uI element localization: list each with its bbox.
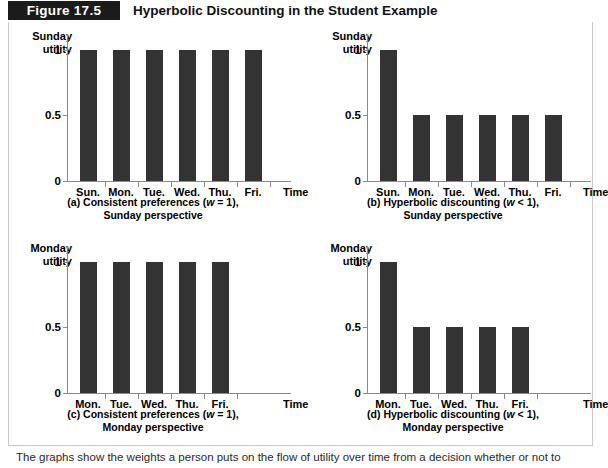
figure-header: Figure 17.5 Hyperbolic Discounting in th… bbox=[0, 0, 602, 22]
y-axis-title-line2: utility bbox=[318, 255, 372, 268]
y-axis-line bbox=[67, 34, 68, 182]
y-tick-mark bbox=[63, 115, 67, 116]
panel-caption-line2: Monday perspective bbox=[308, 421, 598, 434]
plot-area: 10.50Mon.Tue.Wed.Thu.Fri.Time bbox=[367, 246, 591, 394]
bar bbox=[479, 115, 496, 181]
y-tick-mark bbox=[63, 181, 67, 182]
y-tick-label: 0 bbox=[355, 175, 361, 187]
y-tick-mark bbox=[363, 50, 367, 51]
x-tick-mark bbox=[270, 182, 271, 187]
x-tick-mark bbox=[105, 182, 106, 187]
x-tick-mark bbox=[237, 182, 238, 187]
y-tick-label: 0.5 bbox=[345, 109, 361, 121]
panel-caption-line1: (b) Hyperbolic discounting (w < 1), bbox=[308, 196, 598, 209]
y-tick-label: 1 bbox=[55, 44, 61, 56]
chart-panel-c: Mondayutility10.50Mon.Tue.Wed.Thu.Fri.Ti… bbox=[8, 234, 298, 442]
bar bbox=[146, 262, 163, 393]
chart-panel-b: Sundayutility10.50Sun.Mon.Tue.Wed.Thu.Fr… bbox=[308, 22, 598, 230]
y-tick-mark bbox=[363, 115, 367, 116]
bar bbox=[446, 327, 463, 393]
bar bbox=[80, 262, 97, 393]
y-tick-label: 0 bbox=[355, 387, 361, 399]
y-tick-label: 0.5 bbox=[45, 109, 61, 121]
x-axis-line bbox=[67, 181, 291, 182]
bar bbox=[446, 115, 463, 181]
y-axis-title-line1: Monday bbox=[18, 242, 72, 255]
x-tick-mark bbox=[138, 182, 139, 187]
y-axis-title-line2: utility bbox=[18, 255, 72, 268]
x-tick-mark bbox=[204, 182, 205, 187]
y-tick-mark bbox=[63, 262, 67, 263]
y-tick-label: 0.5 bbox=[45, 321, 61, 333]
panel-caption: (b) Hyperbolic discounting (w < 1),Sunda… bbox=[308, 196, 598, 222]
chart-panel-d: Mondayutility10.50Mon.Tue.Wed.Thu.Fri.Ti… bbox=[308, 234, 598, 442]
x-tick-mark bbox=[237, 394, 238, 399]
plot-area: 10.50Sun.Mon.Tue.Wed.Thu.Fri.Time bbox=[367, 34, 591, 182]
y-axis-title: Sundayutility bbox=[18, 30, 72, 55]
x-tick-mark bbox=[438, 394, 439, 399]
chart-panel-a: Sundayutility10.50Sun.Mon.Tue.Wed.Thu.Fr… bbox=[8, 22, 298, 230]
bar bbox=[413, 115, 430, 181]
panel-caption: (d) Hyperbolic discounting (w < 1),Monda… bbox=[308, 408, 598, 434]
y-tick-label: 1 bbox=[355, 256, 361, 268]
bar bbox=[245, 50, 262, 181]
x-tick-mark bbox=[537, 394, 538, 399]
x-tick-mark bbox=[171, 394, 172, 399]
x-tick-mark bbox=[471, 394, 472, 399]
y-axis-title-line1: Monday bbox=[318, 242, 372, 255]
x-tick-mark bbox=[138, 394, 139, 399]
bar bbox=[380, 262, 397, 393]
x-tick-mark bbox=[471, 182, 472, 187]
y-tick-mark bbox=[363, 262, 367, 263]
y-tick-mark bbox=[63, 50, 67, 51]
figure-title: Hyperbolic Discounting in the Student Ex… bbox=[133, 2, 438, 19]
y-axis-title-line1: Sunday bbox=[18, 30, 72, 43]
x-tick-mark bbox=[105, 394, 106, 399]
x-tick-mark bbox=[570, 182, 571, 187]
y-tick-mark bbox=[63, 393, 67, 394]
bar bbox=[113, 50, 130, 181]
x-tick-mark bbox=[537, 182, 538, 187]
plot-area: 10.50Mon.Tue.Wed.Thu.Fri.Time bbox=[67, 246, 291, 394]
y-axis-title-line2: utility bbox=[18, 43, 72, 56]
y-tick-label: 0.5 bbox=[345, 321, 361, 333]
y-axis-line bbox=[367, 246, 368, 394]
x-tick-mark bbox=[171, 182, 172, 187]
y-axis-line bbox=[67, 246, 68, 394]
y-tick-label: 0 bbox=[55, 387, 61, 399]
y-tick-label: 1 bbox=[55, 256, 61, 268]
figure-note: The graphs show the weights a person put… bbox=[16, 450, 588, 464]
x-tick-mark bbox=[504, 394, 505, 399]
y-tick-mark bbox=[363, 327, 367, 328]
x-axis-line bbox=[367, 393, 591, 394]
panel-caption-line2: Sunday perspective bbox=[8, 209, 298, 222]
x-tick-mark bbox=[504, 182, 505, 187]
x-tick-mark bbox=[438, 182, 439, 187]
panel-caption-line2: Monday perspective bbox=[8, 421, 298, 434]
x-tick-mark bbox=[204, 394, 205, 399]
figure-number-chip: Figure 17.5 bbox=[8, 1, 120, 20]
x-tick-mark bbox=[405, 394, 406, 399]
panel-caption: (c) Consistent preferences (w = 1),Monda… bbox=[8, 408, 298, 434]
bar bbox=[212, 262, 229, 393]
bar bbox=[113, 262, 130, 393]
panel-caption-line2: Sunday perspective bbox=[308, 209, 598, 222]
bar bbox=[512, 115, 529, 181]
y-axis-title-line2: utility bbox=[318, 43, 372, 56]
y-tick-label: 0 bbox=[55, 175, 61, 187]
bar bbox=[545, 115, 562, 181]
y-tick-mark bbox=[363, 393, 367, 394]
y-axis-title-line1: Sunday bbox=[318, 30, 372, 43]
bar bbox=[146, 50, 163, 181]
y-tick-mark bbox=[363, 181, 367, 182]
bar bbox=[479, 327, 496, 393]
plot-area: 10.50Sun.Mon.Tue.Wed.Thu.Fri.Time bbox=[67, 34, 291, 182]
panel-caption-line1: (d) Hyperbolic discounting (w < 1), bbox=[308, 408, 598, 421]
y-axis-title: Mondayutility bbox=[318, 242, 372, 267]
bar bbox=[380, 50, 397, 181]
y-axis-title: Mondayutility bbox=[18, 242, 72, 267]
panel-caption: (a) Consistent preferences (w = 1),Sunda… bbox=[8, 196, 298, 222]
panel-caption-line1: (c) Consistent preferences (w = 1), bbox=[8, 408, 298, 421]
x-tick-mark bbox=[405, 182, 406, 187]
